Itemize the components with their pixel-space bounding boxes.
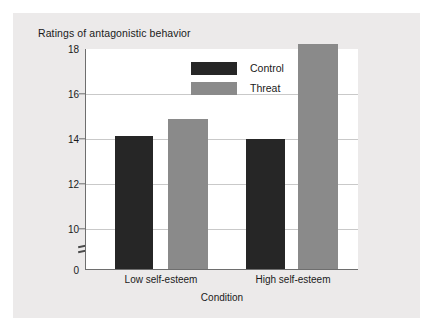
legend-label-control: Control: [250, 62, 284, 74]
legend-label-threat: Threat: [250, 82, 280, 94]
y-tick-0: 0: [73, 265, 79, 276]
y-tick-12: 12: [68, 179, 79, 190]
chart-title: Ratings of antagonistic behavior: [38, 27, 191, 39]
y-tick-16: 16: [68, 89, 79, 100]
plot-area: Control Threat: [85, 49, 358, 270]
bar-high-self-esteem-threat: [298, 44, 338, 269]
legend-item-control: Control: [191, 61, 284, 75]
legend-item-threat: Threat: [191, 81, 284, 95]
legend: Control Threat: [191, 61, 284, 101]
bar-high-self-esteem-control: [246, 139, 285, 269]
legend-swatch-control: [191, 62, 237, 75]
y-tick-14: 14: [68, 134, 79, 145]
y-tick-10: 10: [68, 224, 79, 235]
figure-card: Ratings of antagonistic behavior 18 16 1…: [13, 13, 420, 318]
bar-low-self-esteem-threat: [168, 119, 208, 269]
bar-low-self-esteem-control: [115, 136, 153, 269]
x-axis-title: Condition: [201, 292, 243, 303]
y-axis-tick-labels: 18 16 14 12 10 0: [47, 49, 79, 270]
y-tick-18: 18: [68, 44, 79, 55]
x-tick-low-self-esteem: Low self-esteem: [125, 274, 198, 285]
x-tick-high-self-esteem: High self-esteem: [255, 274, 330, 285]
legend-swatch-threat: [191, 82, 237, 95]
